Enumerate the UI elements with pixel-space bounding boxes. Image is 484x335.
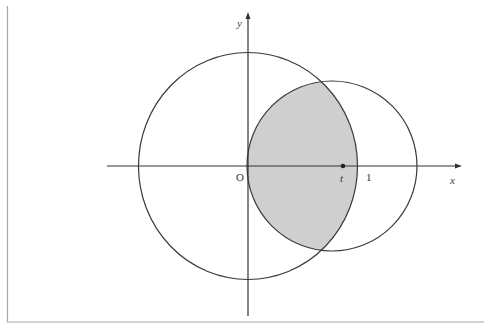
x-axis-arrow-icon — [455, 164, 462, 169]
y-axis-label: y — [236, 17, 242, 29]
y-axis-arrow-icon — [246, 12, 251, 19]
point-t — [341, 164, 346, 169]
diagram-frame: ··· ·· · ··· ·· ··· · ·· · ·· · ·· ··· ·… — [0, 0, 484, 335]
origin-label: O — [236, 171, 244, 183]
geometry-diagram: O t 1 x y — [0, 0, 484, 335]
one-label: 1 — [366, 171, 372, 183]
x-axis-label: x — [449, 174, 455, 186]
